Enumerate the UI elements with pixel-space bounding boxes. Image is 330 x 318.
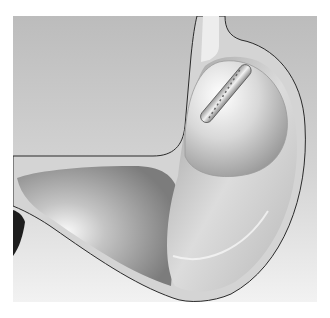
stomach-illustration [13,16,317,302]
stomach-cross-section-graphic [13,16,317,302]
